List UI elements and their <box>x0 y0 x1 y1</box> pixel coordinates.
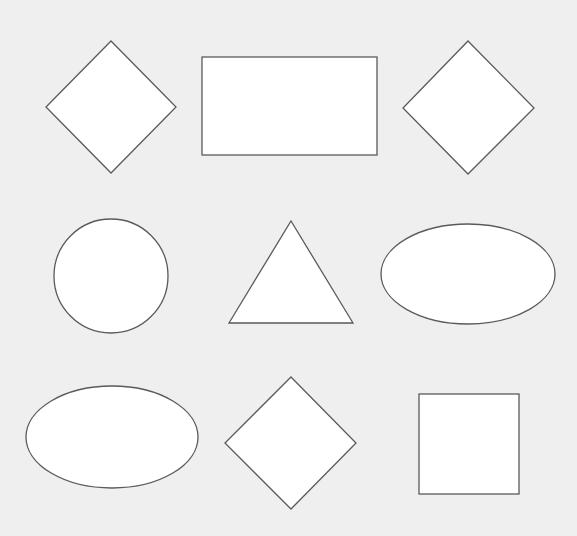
square-shape <box>419 394 519 494</box>
shapes-canvas <box>0 0 577 536</box>
ellipse-shape <box>26 386 198 488</box>
rectangle-shape <box>202 57 377 155</box>
circle-shape <box>54 219 168 333</box>
ellipse-shape <box>381 224 555 324</box>
shape-layer <box>26 41 555 509</box>
